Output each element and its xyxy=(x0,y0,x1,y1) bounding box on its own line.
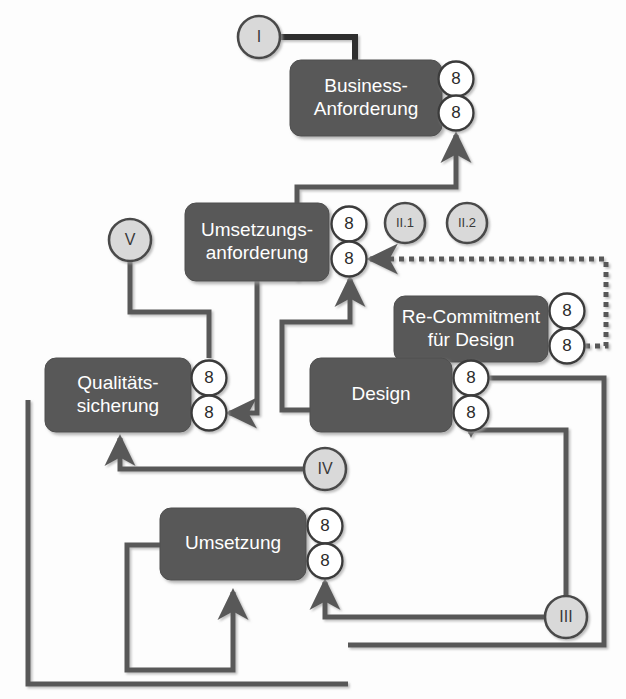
badge-qualitaetssicherung-badge-bottom[interactable]: 8 xyxy=(192,396,227,431)
process-box-design[interactable]: Design xyxy=(310,358,452,432)
connector-conn-i-to-business xyxy=(280,37,355,60)
phase-marker-ii-2[interactable]: II.2 xyxy=(447,203,487,243)
phase-marker-i[interactable]: I xyxy=(238,16,280,58)
badge-recommitment-badge-bottom[interactable]: 8 xyxy=(550,329,585,364)
badge-value: 8 xyxy=(562,336,571,355)
badge-recommitment-badge-top[interactable]: 8 xyxy=(550,294,585,329)
badge-umsetzungsanforderung-badge-top[interactable]: 8 xyxy=(332,207,367,242)
badge-value: 8 xyxy=(344,249,353,268)
badge-design-badge-top[interactable]: 8 xyxy=(454,361,489,396)
diagram-canvas: Business-AnforderungUmsetzungs-anforderu… xyxy=(0,0,626,699)
badge-value: 8 xyxy=(562,301,571,320)
process-box-label-line1: Umsetzungs- xyxy=(201,219,313,240)
badge-business-badge-top[interactable]: 8 xyxy=(439,62,474,97)
process-box-label-line2: sicherung xyxy=(77,395,159,416)
badge-value: 8 xyxy=(204,403,213,422)
badge-umsetzung-badge-top[interactable]: 8 xyxy=(308,509,343,544)
process-box-label-line2: Anforderung xyxy=(314,98,419,119)
process-box-recommitment[interactable]: Re-Commitmentfür Design xyxy=(394,296,548,362)
process-box-business[interactable]: Business-Anforderung xyxy=(290,60,442,136)
badge-value: 8 xyxy=(451,103,460,122)
process-box-label: Design xyxy=(351,383,410,404)
phase-marker-label: V xyxy=(125,231,136,248)
phase-marker-label: I xyxy=(257,28,261,45)
badge-design-badge-bottom[interactable]: 8 xyxy=(454,396,489,431)
phase-marker-ii-1[interactable]: II.1 xyxy=(385,203,425,243)
phase-marker-label: III xyxy=(559,608,572,625)
badge-value: 8 xyxy=(451,69,460,88)
phase-marker-v[interactable]: V xyxy=(109,219,151,261)
badge-value: 8 xyxy=(466,403,475,422)
phase-marker-iv[interactable]: IV xyxy=(304,448,346,490)
process-box-umsetzungsanforderung[interactable]: Umsetzungs-anforderung xyxy=(185,203,329,281)
badge-value: 8 xyxy=(320,551,329,570)
badge-value: 8 xyxy=(466,368,475,387)
badge-value: 8 xyxy=(204,368,213,387)
process-box-label: Umsetzung xyxy=(185,532,281,553)
badge-value: 8 xyxy=(344,214,353,233)
process-box-label-line2: für Design xyxy=(428,329,515,350)
connector-conn-iii-to-umsetzung xyxy=(325,582,545,617)
connector-conn-iii-to-design-badge xyxy=(471,430,566,596)
badge-value: 8 xyxy=(320,516,329,535)
connector-conn-iv-to-qualitaetssicherung xyxy=(120,438,304,469)
phase-marker-iii[interactable]: III xyxy=(545,596,587,638)
process-box-label-line2: anforderung xyxy=(206,242,308,263)
badge-business-badge-bottom[interactable]: 8 xyxy=(439,96,474,131)
badge-umsetzung-badge-bottom[interactable]: 8 xyxy=(308,544,343,579)
process-diagram: Business-AnforderungUmsetzungs-anforderu… xyxy=(0,0,626,699)
process-box-qualitaetssicherung[interactable]: Qualitäts-sicherung xyxy=(45,358,191,432)
process-box-label-line1: Qualitäts- xyxy=(77,372,158,393)
process-box-label-line1: Business- xyxy=(324,75,407,96)
connector-conn-umsetzungsanforderung-to-qualitaetssicherung xyxy=(229,281,257,413)
phase-marker-label: IV xyxy=(317,460,332,477)
process-box-label-line1: Re-Commitment xyxy=(402,306,541,327)
phase-marker-label: II.1 xyxy=(396,215,414,230)
badge-umsetzungsanforderung-badge-bottom[interactable]: 8 xyxy=(332,242,367,277)
process-box-umsetzung[interactable]: Umsetzung xyxy=(160,508,306,580)
badge-qualitaetssicherung-badge-top[interactable]: 8 xyxy=(192,361,227,396)
phase-marker-label: II.2 xyxy=(458,215,476,230)
